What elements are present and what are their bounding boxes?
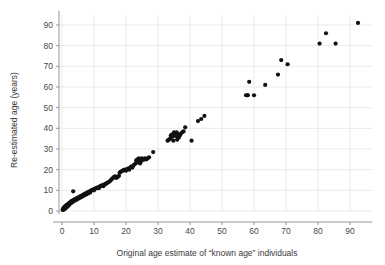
data-point bbox=[199, 117, 203, 121]
y-tick-label: 50 bbox=[44, 103, 54, 113]
data-point bbox=[276, 72, 280, 76]
data-point bbox=[318, 41, 322, 45]
data-point bbox=[182, 129, 186, 133]
x-tick-label: 70 bbox=[281, 226, 291, 236]
scatter-chart-figure: 0102030405060708090 0102030405060708090 … bbox=[0, 0, 385, 265]
x-tick-label: 80 bbox=[313, 226, 323, 236]
data-points bbox=[61, 21, 361, 212]
data-point bbox=[151, 150, 155, 154]
data-point bbox=[263, 83, 267, 87]
chart-canvas: 0102030405060708090 0102030405060708090 … bbox=[0, 0, 385, 265]
data-point bbox=[247, 80, 251, 84]
y-tick-label: 30 bbox=[44, 144, 54, 154]
data-point bbox=[147, 155, 151, 159]
x-tick-label: 20 bbox=[121, 226, 131, 236]
x-tick-label: 0 bbox=[60, 226, 65, 236]
data-point bbox=[246, 93, 250, 97]
data-point bbox=[334, 41, 338, 45]
x-tick-label: 90 bbox=[345, 226, 355, 236]
x-tick-label: 60 bbox=[249, 226, 259, 236]
data-point bbox=[190, 139, 194, 143]
data-point bbox=[324, 31, 328, 35]
x-tick-label: 40 bbox=[185, 226, 195, 236]
data-point bbox=[175, 138, 179, 142]
x-tick-label: 30 bbox=[153, 226, 163, 236]
y-tick-label: 40 bbox=[44, 123, 54, 133]
data-point bbox=[286, 62, 290, 66]
y-tick-labels: 0102030405060708090 bbox=[44, 20, 54, 216]
data-point bbox=[171, 139, 175, 143]
y-tick-label: 0 bbox=[48, 206, 53, 216]
x-tick-labels: 0102030405060708090 bbox=[60, 226, 355, 236]
y-tick-label: 60 bbox=[44, 82, 54, 92]
data-point bbox=[202, 114, 206, 118]
data-point bbox=[183, 125, 187, 129]
data-point bbox=[356, 21, 360, 25]
data-point bbox=[71, 189, 75, 193]
x-tick-label: 10 bbox=[89, 226, 99, 236]
data-point bbox=[279, 58, 283, 62]
x-axis-label: Original age estimate of “known age” ind… bbox=[117, 248, 298, 258]
y-tick-label: 70 bbox=[44, 61, 54, 71]
y-tick-label: 10 bbox=[44, 185, 54, 195]
y-tick-label: 20 bbox=[44, 165, 54, 175]
data-point bbox=[252, 93, 256, 97]
y-tick-label: 80 bbox=[44, 41, 54, 51]
y-axis-label: Re-estimated age (years) bbox=[9, 72, 19, 168]
x-tick-label: 50 bbox=[217, 226, 227, 236]
y-tick-label: 90 bbox=[44, 20, 54, 30]
tick-marks bbox=[56, 25, 350, 225]
